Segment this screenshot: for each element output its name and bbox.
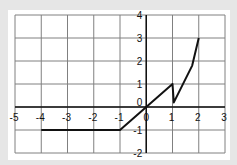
x-tick-label: -3 [62,112,71,123]
y-tick-label: 1 [137,79,143,90]
x-tick-label: -4 [36,112,45,123]
y-tick-label: -1 [133,125,142,136]
x-tick-label: 0 [143,112,149,123]
function-graph: -5-4-3-2-10123 -2-112340 [0,0,237,165]
y-tick-label: -2 [133,148,142,159]
y-tick-label: 2 [137,56,143,67]
y-tick-label: 3 [137,33,143,44]
x-tick-label: -2 [88,112,97,123]
x-tick-label: -1 [115,112,124,123]
y-tick-label: 0 [137,97,143,108]
y-tick-label: 4 [137,10,143,21]
x-tick-label: 1 [169,112,175,123]
x-tick-label: -5 [10,112,19,123]
x-tick-label: 3 [221,112,227,123]
x-tick-label: 2 [195,112,201,123]
x-tick-labels: -5-4-3-2-10123 [10,112,228,123]
